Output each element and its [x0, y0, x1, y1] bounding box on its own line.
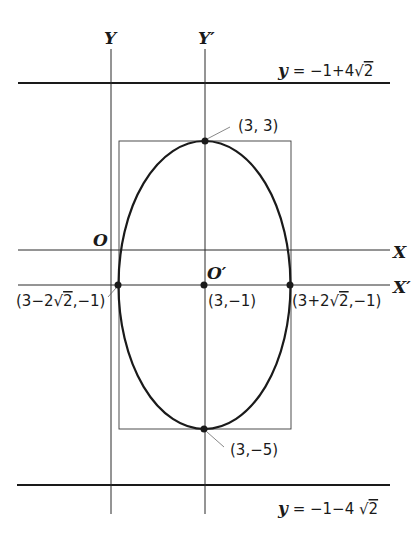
- left-label-sqrt-sign: √: [54, 292, 64, 310]
- lower-eq-sqrt-sign: √: [359, 500, 369, 518]
- left-vertex-point: [115, 282, 122, 289]
- ellipse-diagram: Y Y′ X X′ O O′ y = −1+4√2 y = −1−4 √2 (3…: [0, 0, 418, 541]
- lower-line-equation: y = −1−4 √2: [277, 498, 378, 518]
- left-label-pre: (3−2: [16, 292, 54, 310]
- right-vertex-point: [287, 282, 294, 289]
- right-label-sqrt-sign: √: [330, 292, 340, 310]
- right-label-sqrt-arg: 2: [339, 292, 349, 310]
- left-label-post: ,−1): [73, 292, 106, 310]
- left-point-leader: [108, 288, 116, 297]
- x-axis-label: X: [392, 242, 407, 262]
- upper-line-equation: y = −1+4√2: [277, 60, 373, 80]
- x-prime-axis-label: X′: [392, 277, 411, 297]
- y-prime-axis-label: Y′: [198, 28, 215, 48]
- bottom-vertex-point: [201, 426, 208, 433]
- y-axis-label: Y: [104, 28, 118, 48]
- right-label-pre: (3+2: [292, 292, 330, 310]
- upper-eq-rhs: = −1+4: [288, 62, 354, 80]
- lower-eq-rhs: = −1−4: [288, 500, 359, 518]
- center-point-label: (3,−1): [208, 292, 256, 310]
- right-label-post: ,−1): [349, 292, 382, 310]
- bottom-point-label: (3,−5): [230, 441, 278, 459]
- top-point-label: (3, 3): [238, 117, 278, 135]
- right-point-label: (3+2√2,−1): [292, 292, 381, 310]
- lower-eq-sqrt-arg: 2: [369, 500, 379, 518]
- translated-origin-label: O′: [207, 263, 227, 283]
- top-point-leader: [207, 127, 230, 139]
- upper-eq-sqrt-arg: 2: [364, 62, 374, 80]
- left-point-label: (3−2√2,−1): [16, 292, 105, 310]
- bottom-point-leader: [207, 432, 224, 447]
- origin-label: O: [93, 230, 108, 250]
- upper-eq-sqrt-sign: √: [354, 62, 364, 80]
- left-label-sqrt-arg: 2: [63, 292, 73, 310]
